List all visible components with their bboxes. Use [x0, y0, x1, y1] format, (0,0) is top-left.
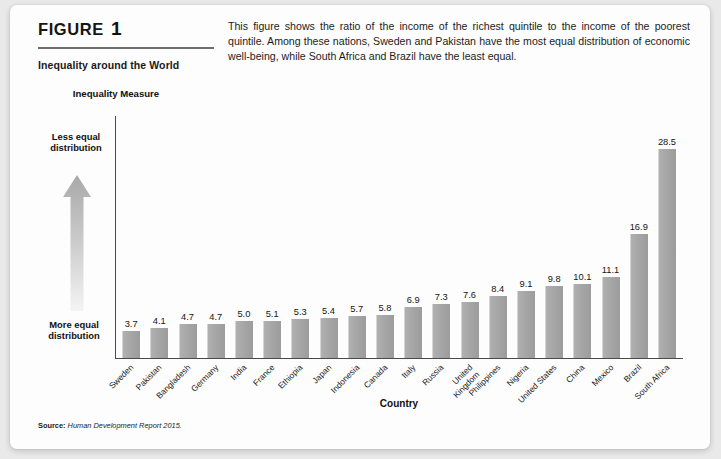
x-tick-label: Italy [400, 363, 418, 381]
x-tick-label: China [565, 363, 587, 385]
bar-series: 3.74.14.74.75.05.15.35.45.75.86.97.37.68… [117, 125, 681, 358]
source-note: Source: Human Development Report 2015. [38, 421, 182, 430]
figure-card: FIGURE 1 Inequality around the World Thi… [10, 5, 710, 449]
bar-value-label: 4.1 [153, 316, 166, 326]
bar-item: 8.4 [484, 125, 512, 358]
bar-value-label: 8.4 [491, 284, 504, 294]
bar-rect [179, 324, 197, 358]
bar-item: 5.4 [314, 125, 342, 358]
bar-value-label: 9.1 [519, 279, 532, 289]
bar-item: 11.1 [596, 125, 624, 358]
bar-rect [263, 321, 281, 358]
bar-item: 5.0 [230, 125, 258, 358]
bar-item: 5.3 [286, 125, 314, 358]
bar-rect [517, 291, 535, 358]
bar-item: 6.9 [399, 125, 427, 358]
bar-rect [122, 331, 140, 358]
x-tick-label: Sweden [108, 363, 136, 391]
bar-value-label: 7.6 [463, 290, 476, 300]
bar-value-label: 3.7 [125, 319, 138, 329]
up-arrow-icon [62, 175, 92, 311]
bar-rect [573, 284, 591, 358]
bar-item: 5.7 [343, 125, 371, 358]
x-axis-title: Country [117, 398, 681, 409]
bar-item: 9.8 [540, 125, 568, 358]
bar-rect [291, 319, 309, 358]
bar-rect [235, 321, 253, 358]
bar-value-label: 5.4 [322, 306, 335, 316]
bar-rect [489, 296, 507, 358]
bar-item: 16.9 [625, 125, 653, 358]
source-text: Human Development Report 2015. [68, 421, 182, 430]
bar-value-label: 16.9 [630, 222, 648, 232]
bar-item: 5.1 [258, 125, 286, 358]
bar-value-label: 6.9 [407, 295, 420, 305]
bar-item: 4.7 [202, 125, 230, 358]
y-axis-title: Inequality Measure [68, 88, 164, 100]
bar-rect [150, 328, 168, 358]
bar-item: 28.5 [653, 125, 681, 358]
bar-rect [320, 318, 338, 358]
bar-item: 4.7 [173, 125, 201, 358]
bar-item: 7.6 [455, 125, 483, 358]
bar-rect [404, 307, 422, 358]
bar-value-label: 9.8 [548, 274, 561, 284]
bar-rect [658, 149, 676, 358]
bar-item: 7.3 [427, 125, 455, 358]
bar-value-label: 10.1 [573, 272, 591, 282]
bar-value-label: 4.7 [209, 312, 222, 322]
bar-item: 4.1 [145, 125, 173, 358]
bar-value-label: 5.7 [350, 304, 363, 314]
source-label: Source: [38, 421, 66, 430]
chart-plot-area: Inequality Measure Less equal distributi… [10, 5, 710, 449]
bar-value-label: 7.3 [435, 292, 448, 302]
bar-value-label: 5.3 [294, 307, 307, 317]
bar-item: 3.7 [117, 125, 145, 358]
bar-value-label: 5.8 [378, 303, 391, 313]
bar-value-label: 5.0 [237, 309, 250, 319]
more-equal-annotation: More equal distribution [36, 319, 112, 342]
bar-rect [376, 315, 394, 358]
bar-rect [461, 302, 479, 358]
x-tick-label: Brazil [622, 363, 644, 385]
bar-item: 10.1 [568, 125, 596, 358]
bar-rect [348, 316, 366, 358]
bar-value-label: 11.1 [602, 265, 619, 275]
bar-rect [630, 234, 648, 358]
bar-value-label: 4.7 [181, 312, 194, 322]
bar-item: 5.8 [371, 125, 399, 358]
bar-item: 9.1 [512, 125, 540, 358]
bar-rect [545, 286, 563, 358]
x-tick-label: India [229, 363, 249, 383]
bar-rect [602, 277, 620, 358]
bar-rect [432, 304, 450, 358]
less-equal-annotation: Less equal distribution [40, 131, 112, 154]
bar-value-label: 5.1 [266, 309, 279, 319]
bar-rect [207, 324, 225, 358]
bar-value-label: 28.5 [658, 137, 676, 147]
x-axis-line [115, 358, 683, 359]
x-tick-label: Japan [310, 363, 333, 386]
